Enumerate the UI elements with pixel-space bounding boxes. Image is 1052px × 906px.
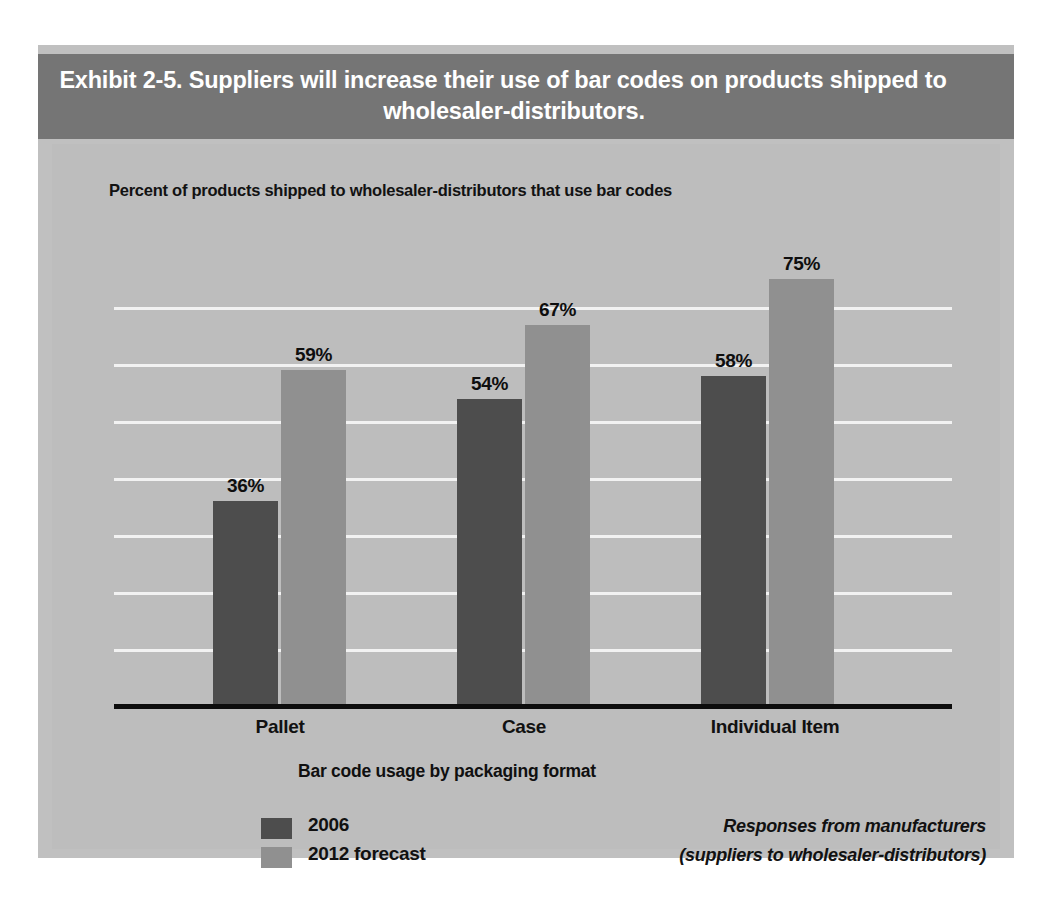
legend-swatch-2012-forecast <box>261 847 292 868</box>
category-label-pallet: Pallet <box>256 716 305 738</box>
bar-value-label: 59% <box>295 344 332 366</box>
legend-item-2012-forecast: 2012 forecast <box>261 843 561 872</box>
bar-group: 58% 75% <box>701 251 834 706</box>
category-label-case: Case <box>502 716 546 738</box>
x-axis-line <box>114 704 952 709</box>
bar-2012-individual-item[interactable]: 75% <box>769 279 834 706</box>
plot-area: 36% 59% 54% 67% 58% 75% <box>114 251 952 706</box>
exhibit-title: Exhibit 2-5. Suppliers will increase the… <box>74 65 954 127</box>
annotation-line-2: (suppliers to wholesaler-distributors) <box>679 841 986 870</box>
legend-item-2006: 2006 <box>261 814 561 843</box>
bar-2006-pallet[interactable]: 36% <box>213 501 278 706</box>
legend-label-2006: 2006 <box>308 814 349 836</box>
x-axis-title: Bar code usage by packaging format <box>52 761 842 782</box>
legend: 2006 2012 forecast <box>261 814 561 872</box>
bar-2012-pallet[interactable]: 59% <box>281 370 346 706</box>
bar-value-label: 75% <box>783 253 820 275</box>
chart-annotation: Responses from manufacturers (suppliers … <box>679 812 986 870</box>
bar-group: 54% 67% <box>457 251 590 706</box>
annotation-line-1: Responses from manufacturers <box>679 812 986 841</box>
bar-value-label: 36% <box>227 475 264 497</box>
chart-panel: Percent of products shipped to wholesale… <box>52 144 1000 849</box>
bar-value-label: 67% <box>539 299 576 321</box>
bar-value-label: 54% <box>471 373 508 395</box>
chart-subtitle: Percent of products shipped to wholesale… <box>109 181 672 200</box>
bar-2006-case[interactable]: 54% <box>457 399 522 706</box>
category-label-individual-item: Individual Item <box>711 716 840 738</box>
legend-swatch-2006 <box>261 818 292 839</box>
legend-label-2012-forecast: 2012 forecast <box>308 843 426 865</box>
exhibit-header-banner: Exhibit 2-5. Suppliers will increase the… <box>38 54 1014 139</box>
bar-value-label: 58% <box>715 350 752 372</box>
category-axis-labels: Pallet Case Individual Item <box>114 716 952 746</box>
bar-group: 36% 59% <box>213 251 346 706</box>
exhibit-figure: Exhibit 2-5. Suppliers will increase the… <box>38 45 1014 858</box>
bar-2006-individual-item[interactable]: 58% <box>701 376 766 706</box>
bar-2012-case[interactable]: 67% <box>525 325 590 706</box>
